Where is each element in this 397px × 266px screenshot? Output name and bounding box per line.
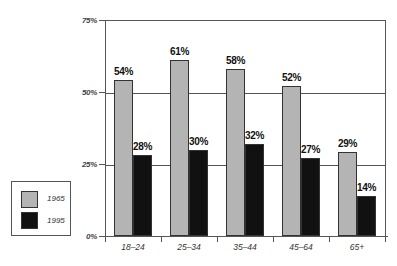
x-tick — [385, 236, 386, 242]
x-tick-label: 25–34 — [161, 242, 217, 252]
x-tick — [217, 236, 218, 242]
x-axis — [100, 236, 388, 237]
bar-1995-65+ — [357, 196, 376, 236]
legend-swatch-1995 — [21, 212, 38, 229]
y-tick — [99, 20, 105, 21]
y-tick-label: 0% — [86, 232, 97, 241]
y-tick-label: 25% — [82, 160, 97, 169]
y-tick — [99, 164, 105, 165]
bar-1995-18–24 — [133, 155, 152, 236]
gridline-50 — [106, 93, 385, 94]
x-tick — [161, 236, 162, 242]
value-label: 61% — [160, 46, 200, 57]
y-tick-label: 75% — [82, 16, 97, 25]
x-tick — [105, 236, 106, 242]
bar-1965-45–64 — [282, 86, 301, 236]
value-label: 32% — [235, 130, 275, 141]
y-tick-label: 50% — [82, 88, 97, 97]
x-tick-label: 45–64 — [273, 242, 329, 252]
value-label: 52% — [272, 72, 312, 83]
bar-1995-45–64 — [301, 158, 320, 236]
bar-1995-35–44 — [245, 144, 264, 236]
bar-1965-65+ — [338, 152, 357, 236]
x-tick-label: 65+ — [329, 242, 385, 252]
x-tick-label: 35–44 — [217, 242, 273, 252]
value-label: 28% — [123, 141, 163, 152]
value-label: 29% — [328, 138, 368, 149]
value-label: 30% — [179, 136, 219, 147]
value-label: 58% — [216, 55, 256, 66]
x-tick — [329, 236, 330, 242]
bar-1965-25–34 — [170, 60, 189, 236]
x-tick — [273, 236, 274, 242]
legend-label-1995: 1995 — [47, 216, 65, 225]
legend-label-1965: 1965 — [47, 194, 65, 203]
x-tick-label: 18–24 — [105, 242, 161, 252]
bar-1965-35–44 — [226, 69, 245, 236]
value-label: 54% — [104, 66, 144, 77]
bar-1965-18–24 — [114, 80, 133, 236]
value-label: 27% — [291, 144, 331, 155]
bar-1995-25–34 — [189, 150, 208, 236]
value-label: 14% — [347, 182, 387, 193]
legend-swatch-1965 — [21, 191, 38, 208]
legend: 1965 1995 — [11, 181, 71, 236]
y-tick — [99, 92, 105, 93]
